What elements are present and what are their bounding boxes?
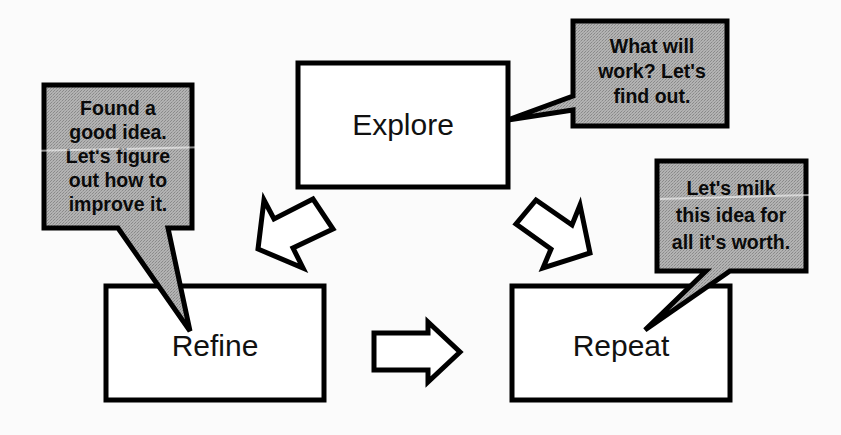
callout-repeat-line-3: all it's worth. xyxy=(672,231,790,253)
diagram-svg: Explore Refine Repeat What will work? xyxy=(0,0,841,435)
process-box-refine-label: Refine xyxy=(172,329,259,362)
callout-repeat-line-2: this idea for xyxy=(676,204,787,226)
process-box-repeat-label: Repeat xyxy=(573,329,670,362)
callout-refine-line-3: Let's figure xyxy=(66,145,170,167)
right-arrow-icon xyxy=(374,322,460,382)
callout-explore[interactable]: What will work? Let's find out. xyxy=(508,21,727,126)
diagram-canvas: Explore Refine Repeat What will work? xyxy=(0,0,841,435)
up-left-arrow-icon xyxy=(516,200,590,268)
process-box-refine[interactable]: Refine xyxy=(106,286,324,400)
callout-explore-line-2: work? Let's xyxy=(597,60,706,82)
callout-refine-line-4: out how to xyxy=(69,169,168,191)
callout-refine-line-1: Found a xyxy=(80,97,156,119)
callout-repeat-line-1: Let's milk xyxy=(686,177,775,199)
arrow-refine-to-repeat xyxy=(374,322,460,382)
callout-explore-line-3: find out. xyxy=(614,85,691,107)
callout-explore-line-1: What will xyxy=(610,35,695,57)
process-box-explore-label: Explore xyxy=(352,108,454,141)
callout-refine-line-5: improve it. xyxy=(69,193,168,215)
arrow-explore-to-refine xyxy=(258,199,333,268)
arrow-repeat-to-explore xyxy=(516,200,590,268)
process-box-repeat[interactable]: Repeat xyxy=(512,286,730,400)
callout-refine-line-2: good idea. xyxy=(69,121,167,143)
process-box-explore[interactable]: Explore xyxy=(298,63,508,187)
down-left-arrow-icon xyxy=(258,199,333,268)
